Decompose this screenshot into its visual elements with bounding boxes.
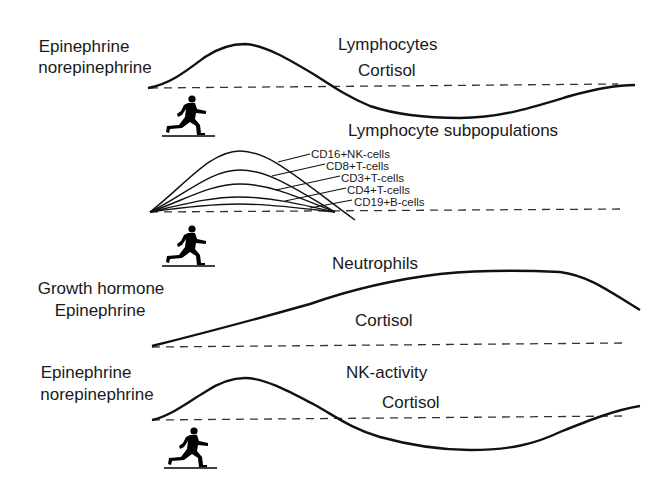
panel-3-curves	[152, 271, 640, 347]
panel-1-curves	[148, 44, 635, 118]
panel-1-right-label-lymphocytes: Lymphocytes	[338, 34, 438, 55]
panel-4-curves	[152, 378, 640, 450]
panel-3-left-label-1: Growth hormone	[18, 278, 184, 299]
running-person-icon	[160, 95, 216, 137]
panel-4-left-label-1: Epinephrine	[38, 362, 134, 383]
label-cd3-t: CD3+T-cells	[341, 172, 404, 184]
running-person-icon	[160, 225, 216, 267]
panel-4-right-label-cortisol: Cortisol	[382, 392, 440, 413]
panel-4-baseline	[152, 416, 622, 420]
panel-3-left-label-2: Epinephrine	[42, 300, 158, 321]
running-person-icon	[162, 427, 218, 469]
panel-2-title: Lymphocyte subpopulations	[348, 120, 558, 141]
panel-1-baseline	[150, 84, 618, 88]
panel-1-left-label-2: norepinephrine	[24, 57, 166, 78]
panel-4-right-label-nk-activity: NK-activity	[346, 362, 427, 383]
panel-3-right-label-neutrophils: Neutrophils	[332, 253, 418, 274]
panel-1-right-label-cortisol: Cortisol	[358, 60, 416, 81]
label-cd8-t: CD8+T-cells	[326, 160, 389, 172]
panel-1-response-curve	[148, 44, 635, 118]
panel-3-baseline	[152, 343, 622, 347]
panel-3-right-label-cortisol: Cortisol	[355, 310, 413, 331]
panel-4-response-curve	[152, 378, 640, 450]
panel-1-left-label-1: Epinephrine	[36, 36, 132, 57]
label-cd16-nk: CD16+NK-cells	[311, 148, 390, 160]
label-cd19-b: CD19+B-cells	[354, 196, 425, 208]
panel-3-response-curve	[152, 271, 640, 346]
panel-2-baseline	[150, 209, 622, 212]
panel-4-left-label-2: norepinephrine	[26, 384, 168, 405]
label-cd4-t: CD4+T-cells	[347, 184, 410, 196]
leader-cd16	[278, 154, 310, 162]
